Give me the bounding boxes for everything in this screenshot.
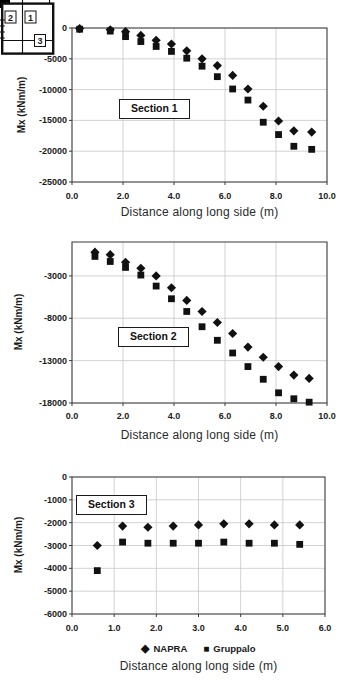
x-tick-label: 2.0 xyxy=(150,623,163,633)
x-tick-label: 2.0 xyxy=(117,411,130,421)
data-point-napra xyxy=(274,362,283,371)
section2-x-axis-title: Distance along long side (m) xyxy=(72,428,327,442)
data-point-gruppalo xyxy=(229,350,236,357)
y-tick-label: -18000 xyxy=(39,398,67,408)
data-point-gruppalo xyxy=(153,283,160,290)
x-tick-label: 8.0 xyxy=(270,191,283,201)
x-tick-label: 8.0 xyxy=(270,411,283,421)
section1-y-axis-title: Mx (kNm/m) xyxy=(16,77,27,134)
data-point-napra xyxy=(167,283,176,292)
data-point-gruppalo xyxy=(290,143,297,150)
data-point-gruppalo xyxy=(229,86,236,93)
data-point-gruppalo xyxy=(195,540,202,547)
y-tick-label: 0 xyxy=(62,472,67,482)
legend-label-napra: NAPRA xyxy=(153,643,187,654)
data-point-gruppalo xyxy=(214,337,221,344)
section1-label: Section 1 xyxy=(119,99,190,119)
section3-y-axis-title: Mx (kNm/m) xyxy=(13,517,24,574)
data-point-gruppalo xyxy=(271,540,278,547)
y-tick-label: -2000 xyxy=(44,518,67,528)
data-point-gruppalo xyxy=(199,323,206,330)
data-point-napra xyxy=(245,519,254,528)
inset-region-label-3: 3 xyxy=(37,36,42,46)
data-point-gruppalo xyxy=(245,363,252,370)
x-tick-label: 4.0 xyxy=(168,411,181,421)
data-point-gruppalo xyxy=(119,539,126,546)
inset-region-label-1: 1 xyxy=(28,13,33,23)
x-tick-label: 4.0 xyxy=(168,191,181,201)
data-point-gruppalo xyxy=(296,541,303,548)
section1-x-axis-title: Distance along long side (m) xyxy=(72,205,327,219)
section2-y-axis-title: Mx (kNm/m) xyxy=(13,294,24,351)
x-tick-label: 10.0 xyxy=(318,411,336,421)
data-point-gruppalo xyxy=(275,131,282,138)
data-point-napra xyxy=(243,84,252,93)
plan-inset-diagram: 2 1 3 xyxy=(0,0,57,58)
y-tick-label: -3000 xyxy=(44,541,67,551)
data-point-napra xyxy=(143,523,152,532)
data-point-napra xyxy=(274,116,283,125)
data-point-napra xyxy=(228,71,237,80)
section2-label: Section 2 xyxy=(118,327,189,347)
data-point-gruppalo xyxy=(183,308,190,315)
x-tick-label: 10.0 xyxy=(318,191,336,201)
y-tick-label: -6000 xyxy=(44,609,67,619)
data-point-napra xyxy=(182,46,191,55)
data-point-gruppalo xyxy=(183,55,190,62)
data-point-napra xyxy=(197,54,206,63)
data-point-gruppalo xyxy=(199,63,206,70)
y-tick-label: -1000 xyxy=(44,495,67,505)
data-point-napra xyxy=(270,520,279,529)
y-tick-label: -5000 xyxy=(44,586,67,596)
data-point-napra xyxy=(305,374,314,383)
inset-region-label-2: 2 xyxy=(8,13,13,23)
data-point-gruppalo xyxy=(260,119,267,126)
data-point-gruppalo xyxy=(220,539,227,546)
data-point-gruppalo xyxy=(306,399,313,406)
data-point-gruppalo xyxy=(168,48,175,55)
y-tick-label: -10000 xyxy=(39,85,67,95)
data-point-napra xyxy=(289,126,298,135)
data-point-gruppalo xyxy=(246,540,253,547)
legend-item-napra: ◆ NAPRA xyxy=(141,643,187,654)
x-tick-label: 4.0 xyxy=(234,623,247,633)
y-tick-label: -15000 xyxy=(39,115,67,125)
data-point-napra xyxy=(228,329,237,338)
y-tick-label: -3000 xyxy=(44,271,67,281)
diamond-marker-icon: ◆ xyxy=(141,643,149,654)
plot-border xyxy=(72,28,327,182)
data-point-napra xyxy=(213,61,222,70)
data-point-napra xyxy=(219,519,228,528)
data-point-napra xyxy=(93,541,102,550)
data-point-napra xyxy=(182,296,191,305)
x-tick-label: 5.0 xyxy=(277,623,290,633)
x-tick-label: 6.0 xyxy=(319,623,332,633)
y-tick-label: -20000 xyxy=(39,146,67,156)
chart-legend: ◆ NAPRA ■ Gruppalo xyxy=(72,643,325,654)
data-point-napra xyxy=(213,318,222,327)
data-point-gruppalo xyxy=(290,395,297,402)
data-point-napra xyxy=(136,264,145,273)
y-tick-label: 0 xyxy=(62,23,67,33)
data-point-gruppalo xyxy=(260,376,267,383)
y-tick-label: -25000 xyxy=(39,177,67,187)
x-tick-label: 0.0 xyxy=(66,411,79,421)
legend-label-gruppalo: Gruppalo xyxy=(213,643,255,654)
x-tick-label: 6.0 xyxy=(219,411,232,421)
legend-item-gruppalo: ■ Gruppalo xyxy=(203,643,255,654)
x-tick-label: 0.0 xyxy=(66,191,79,201)
data-point-gruppalo xyxy=(275,389,282,396)
x-tick-label: 6.0 xyxy=(219,191,232,201)
data-point-gruppalo xyxy=(168,295,175,302)
data-point-napra xyxy=(152,271,161,280)
data-point-gruppalo xyxy=(170,540,177,547)
data-point-napra xyxy=(259,102,268,111)
square-marker-icon: ■ xyxy=(203,644,209,654)
data-point-gruppalo xyxy=(214,73,221,80)
y-tick-label: -4000 xyxy=(44,563,67,573)
data-point-napra xyxy=(307,128,316,137)
x-tick-label: 1.0 xyxy=(108,623,121,633)
data-point-napra xyxy=(295,520,304,529)
data-point-gruppalo xyxy=(94,567,101,574)
data-point-napra xyxy=(289,370,298,379)
